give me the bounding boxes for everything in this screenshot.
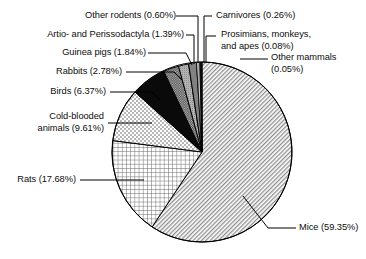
label-mice-text: Mice (59.35%) [299, 222, 358, 232]
label-cold-blooded-line1: Cold-blooded [49, 111, 104, 121]
label-carnivores: Carnivores (0.26%) [216, 10, 295, 22]
leader-artio [186, 35, 194, 64]
pie-chart: Other rodents (0.60%) Carnivores (0.26%)… [0, 0, 366, 259]
label-mice: Mice (59.35%) [299, 222, 358, 234]
label-artio-and-perissodactyla: Artio- and Perissodactyla (1.39%) [8, 29, 184, 41]
label-birds-text: Birds (6.37%) [50, 86, 106, 96]
label-other-mammals: Other mammals (0.05%) [271, 52, 363, 75]
label-prosimians-line1: Prosimians, monkeys, [221, 29, 311, 39]
label-guinea-pigs: Guinea pigs (1.84%) [38, 47, 146, 59]
label-cold-blooded-animals: Cold-blooded animals (9.61%) [14, 111, 104, 134]
label-rats: Rats (17.68%) [8, 174, 76, 186]
label-carnivores-text: Carnivores (0.26%) [216, 10, 295, 20]
label-prosimians-monkeys-and-apes: Prosimians, monkeys, and apes (0.08%) [221, 29, 363, 52]
label-rats-text: Rats (17.68%) [17, 174, 76, 184]
pie-slices [112, 62, 292, 242]
label-other-mammals-line2: (0.05%) [271, 64, 303, 74]
label-rabbits: Rabbits (2.78%) [24, 66, 122, 78]
leader-prosimians [206, 36, 216, 62]
leader-carnivores [204, 16, 212, 62]
label-guinea-pigs-text: Guinea pigs (1.84%) [62, 47, 146, 57]
label-cold-blooded-line2: animals (9.61%) [38, 123, 104, 133]
label-artio-text: Artio- and Perissodactyla (1.39%) [47, 29, 184, 39]
label-other-mammals-line1: Other mammals [271, 52, 336, 62]
label-prosimians-line2: and apes (0.08%) [221, 41, 294, 51]
label-other-rodents: Other rodents (0.60%) [68, 10, 176, 22]
label-birds: Birds (6.37%) [18, 86, 106, 98]
label-other-rodents-text: Other rodents (0.60%) [85, 10, 176, 20]
label-rabbits-text: Rabbits (2.78%) [56, 66, 122, 76]
